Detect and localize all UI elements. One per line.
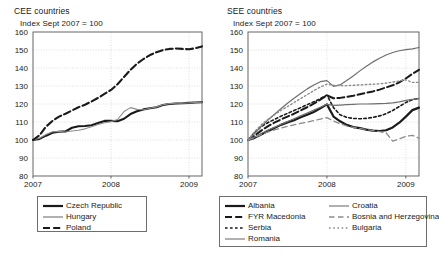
x-tick-label: 2009 bbox=[180, 180, 198, 189]
y-tick-label: 160 bbox=[15, 28, 29, 37]
y-tick-label: 150 bbox=[15, 46, 29, 55]
legend-label: Serbia bbox=[246, 223, 271, 232]
plot-svg-cee: 8090100110120130140150160200720082009 bbox=[0, 26, 210, 191]
y-tick-label: 130 bbox=[15, 82, 29, 91]
legend-items-cee: Czech RepublicHungaryPoland bbox=[38, 197, 146, 236]
series-line bbox=[33, 102, 202, 140]
legend-item[interactable]: Poland bbox=[42, 222, 142, 233]
y-tick-label: 120 bbox=[15, 100, 29, 109]
legend-swatch-icon bbox=[328, 212, 350, 221]
x-tick-label: 2007 bbox=[24, 180, 42, 189]
legend-label: Romania bbox=[246, 234, 280, 243]
plot-area-cee: 8090100110120130140150160200720082009 bbox=[0, 26, 210, 191]
series-line bbox=[33, 46, 202, 140]
y-tick-label: 120 bbox=[230, 100, 244, 109]
chart-panel-see: SEE countries Index Sept 2007 = 100 8090… bbox=[213, 0, 433, 255]
legend-empty-cell bbox=[328, 233, 428, 244]
y-tick-label: 140 bbox=[15, 64, 29, 73]
legend-label: Bulgaria bbox=[350, 223, 381, 232]
y-tick-label: 140 bbox=[230, 64, 244, 73]
legend-swatch-icon bbox=[42, 212, 64, 221]
legend-label: Bosnia and Herzegovina bbox=[350, 212, 439, 221]
y-tick-label: 110 bbox=[15, 118, 28, 127]
y-tick-label: 110 bbox=[230, 118, 243, 127]
legend-label: Albania bbox=[246, 201, 275, 210]
legend-item[interactable]: Albania bbox=[224, 200, 328, 211]
legend-swatch-icon bbox=[42, 223, 64, 232]
legend-item[interactable]: Serbia bbox=[224, 222, 328, 233]
x-tick-label: 2007 bbox=[239, 180, 257, 189]
legend-item[interactable]: Bulgaria bbox=[328, 222, 428, 233]
y-tick-label: 90 bbox=[19, 154, 28, 163]
legend-swatch-icon bbox=[224, 234, 246, 243]
legend-see: AlbaniaCroatiaFYR MacedoniaBosnia and He… bbox=[219, 196, 427, 247]
legend-item[interactable]: Hungary bbox=[42, 211, 142, 222]
y-tick-label: 150 bbox=[230, 46, 244, 55]
x-tick-label: 2009 bbox=[397, 180, 415, 189]
legend-label: Hungary bbox=[64, 212, 96, 221]
legend-cee: Czech RepublicHungaryPoland bbox=[37, 196, 147, 232]
legend-label: Czech Republic bbox=[64, 201, 122, 210]
panel-title-cee: CEE countries bbox=[14, 6, 70, 16]
plot-svg-see: 8090100110120130140150160200720082009 bbox=[213, 26, 433, 191]
legend-label: Poland bbox=[64, 223, 91, 232]
legend-swatch-icon bbox=[328, 223, 350, 232]
x-tick-label: 2008 bbox=[102, 180, 120, 189]
y-tick-label: 90 bbox=[234, 154, 243, 163]
legend-item[interactable]: Romania bbox=[224, 233, 328, 244]
y-tick-label: 130 bbox=[230, 82, 244, 91]
y-tick-label: 160 bbox=[230, 28, 244, 37]
legend-item[interactable]: Czech Republic bbox=[42, 200, 142, 211]
legend-item[interactable]: Bosnia and Herzegovina bbox=[328, 211, 428, 222]
legend-swatch-icon bbox=[42, 201, 64, 210]
y-tick-label: 100 bbox=[230, 136, 244, 145]
x-tick-label: 2008 bbox=[318, 180, 336, 189]
legend-label: FYR Macedonia bbox=[246, 212, 305, 221]
legend-items-see: AlbaniaCroatiaFYR MacedoniaBosnia and He… bbox=[220, 197, 426, 247]
legend-swatch-icon bbox=[224, 223, 246, 232]
legend-swatch-icon bbox=[224, 212, 246, 221]
legend-item[interactable]: FYR Macedonia bbox=[224, 211, 328, 222]
plot-area-see: 8090100110120130140150160200720082009 bbox=[213, 26, 433, 191]
legend-item[interactable]: Croatia bbox=[328, 200, 428, 211]
panel-title-see: SEE countries bbox=[227, 6, 282, 16]
y-tick-label: 100 bbox=[15, 136, 29, 145]
legend-swatch-icon bbox=[328, 201, 350, 210]
chart-panel-cee: CEE countries Index Sept 2007 = 100 8090… bbox=[0, 0, 216, 255]
legend-swatch-icon bbox=[224, 201, 246, 210]
legend-label: Croatia bbox=[350, 201, 378, 210]
